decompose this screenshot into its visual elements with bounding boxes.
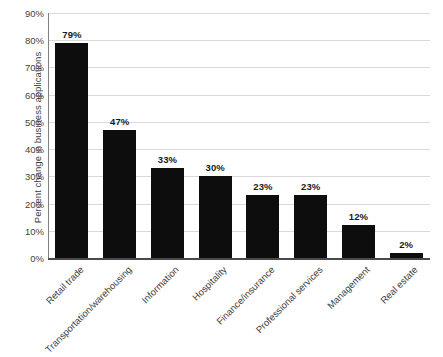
x-axis-category-label: Management <box>325 264 372 311</box>
y-axis-tick-label: 0% <box>0 253 44 264</box>
bar-group: 2% <box>390 13 423 258</box>
y-axis-tick-label: 90% <box>0 8 44 19</box>
bar-group: 33% <box>151 13 184 258</box>
bar-group: 79% <box>55 13 88 258</box>
y-axis-tick-label: 80% <box>0 35 44 46</box>
x-axis-category-label: Retail trade <box>44 264 86 306</box>
x-axis-category-label: Transportation/warehousing <box>43 264 134 355</box>
bar[interactable] <box>151 168 184 258</box>
bars-layer: 79%47%33%30%23%23%12%2% <box>48 13 430 258</box>
bar[interactable] <box>246 195 279 258</box>
y-axis-tick-labels: 0%10%20%30%40%50%60%70%80%90% <box>0 0 44 357</box>
x-axis-category-label: Hospitality <box>190 264 229 303</box>
y-axis-tick-label: 20% <box>0 198 44 209</box>
bar-group: 12% <box>342 13 375 258</box>
bar[interactable] <box>342 225 375 258</box>
y-axis-tick-label: 70% <box>0 62 44 73</box>
y-axis-tick-label: 10% <box>0 225 44 236</box>
y-axis-tick-label: 30% <box>0 171 44 182</box>
y-axis-tick-label: 50% <box>0 116 44 127</box>
bar-value-label: 30% <box>206 162 225 173</box>
x-axis-category-label: Information <box>140 264 181 305</box>
x-axis-category-label: Real estate <box>378 264 420 306</box>
bar-value-label: 23% <box>253 181 272 192</box>
bar[interactable] <box>294 195 327 258</box>
bar-value-label: 2% <box>399 239 413 250</box>
bar-group: 47% <box>103 13 136 258</box>
bar-value-label: 79% <box>62 29 81 40</box>
bar-chart: Percent change in business applications … <box>0 0 443 357</box>
bar[interactable] <box>55 43 88 258</box>
bar-group: 23% <box>294 13 327 258</box>
footnote-clipped <box>232 343 443 355</box>
bar-value-label: 47% <box>110 116 129 127</box>
bar-value-label: 12% <box>349 211 368 222</box>
y-axis-tick-label: 60% <box>0 89 44 100</box>
bar-value-label: 33% <box>158 154 177 165</box>
bar[interactable] <box>103 130 136 258</box>
bar-group: 23% <box>246 13 279 258</box>
bar-value-label: 23% <box>301 181 320 192</box>
bar[interactable] <box>199 176 232 258</box>
y-axis-tick-label: 40% <box>0 144 44 155</box>
bar-group: 30% <box>199 13 232 258</box>
